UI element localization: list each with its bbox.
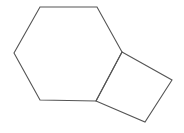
- figure-canvas: [0, 0, 184, 133]
- four-membered-ring-shape: [96, 52, 172, 122]
- six-membered-ring-shape: [14, 7, 122, 101]
- skeletal-structure-svg: [0, 0, 184, 133]
